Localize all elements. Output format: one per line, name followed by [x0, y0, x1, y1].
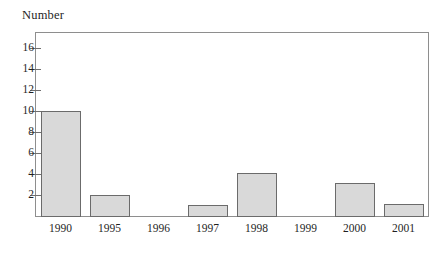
x-tick-label: 1998 [232, 222, 281, 234]
x-tick-label: 1995 [85, 222, 134, 234]
y-axis-title: Number [22, 8, 64, 23]
x-tick-label: 2000 [330, 222, 379, 234]
y-tick-label: 12 [23, 83, 35, 95]
y-tick-label: 14 [23, 62, 35, 74]
y-tick-label: 10 [23, 104, 35, 116]
x-tick-label: 1997 [183, 222, 232, 234]
x-tick-label: 1999 [281, 222, 330, 234]
x-tick-label: 2001 [379, 222, 428, 234]
bar-1990 [41, 111, 81, 217]
y-tick-label: 8 [28, 125, 34, 137]
bar-2001 [384, 204, 424, 217]
bar-1997 [188, 205, 228, 217]
x-tick-label: 1990 [36, 222, 85, 234]
x-tick-label: 1996 [134, 222, 183, 234]
y-tick-label: 2 [28, 188, 34, 200]
y-tick-label: 4 [28, 167, 34, 179]
y-tick-label: 6 [28, 146, 34, 158]
bar-1998 [237, 173, 277, 217]
bar-2000 [335, 183, 375, 217]
plot-area [36, 33, 428, 217]
bar-1995 [90, 195, 130, 217]
y-tick-label: 16 [23, 41, 35, 53]
bar-chart: Number 246810121416 19901995199619971998… [0, 0, 445, 263]
